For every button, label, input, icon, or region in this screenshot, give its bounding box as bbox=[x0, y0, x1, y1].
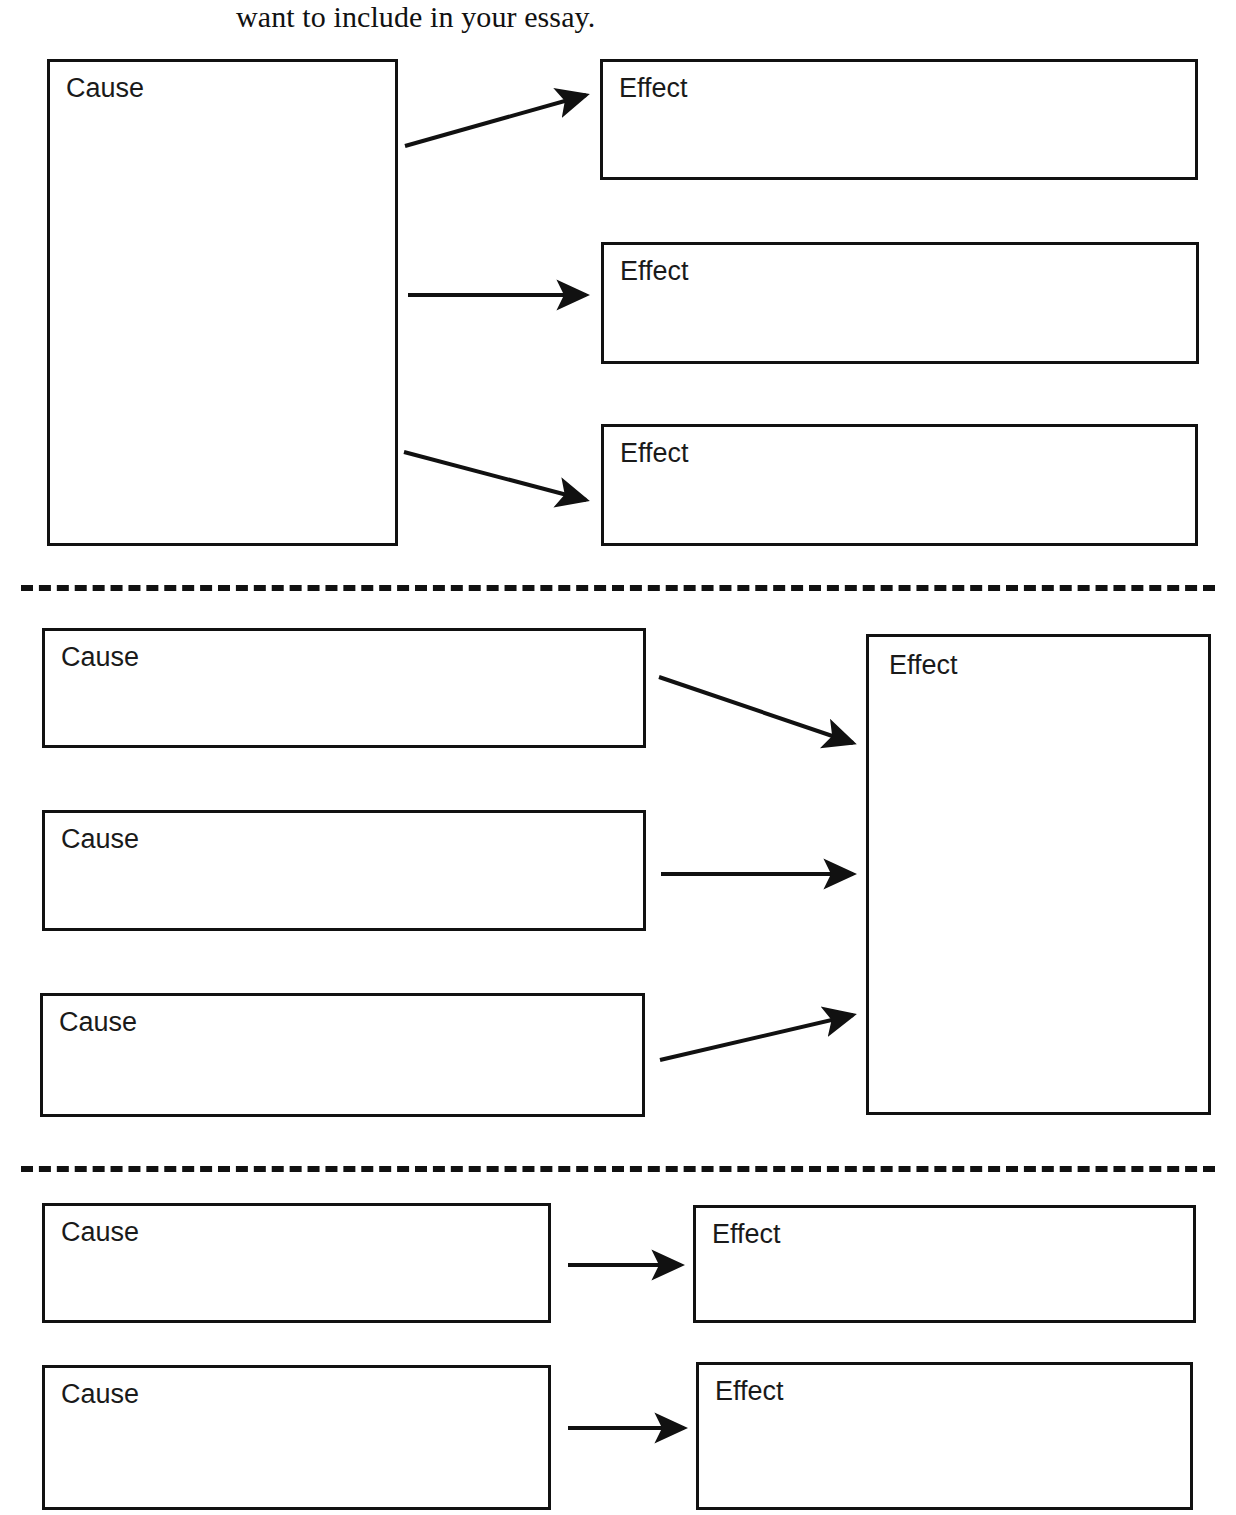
section1-effect-label-1: Effect bbox=[619, 74, 688, 104]
page-header-text: want to include in your essay. bbox=[236, 0, 595, 34]
section1-effect-label-2: Effect bbox=[620, 257, 689, 287]
section-divider-1 bbox=[21, 585, 1215, 591]
section3-cause-box-1[interactable]: Cause bbox=[42, 1203, 551, 1323]
section2-effect-label: Effect bbox=[889, 651, 958, 681]
section2-cause-box-1[interactable]: Cause bbox=[42, 628, 646, 748]
arrow-cause-to-effect-2a bbox=[659, 677, 853, 743]
section2-cause-label-1: Cause bbox=[61, 643, 139, 673]
section2-cause-label-2: Cause bbox=[61, 825, 139, 855]
section1-effect-label-3: Effect bbox=[620, 439, 689, 469]
section3-effect-box-1[interactable]: Effect bbox=[693, 1205, 1196, 1323]
section3-effect-label-2: Effect bbox=[715, 1377, 784, 1407]
section3-cause-label-2: Cause bbox=[61, 1380, 139, 1410]
section-divider-2 bbox=[21, 1166, 1215, 1172]
worksheet-page: want to include in your essay. Cause Eff… bbox=[0, 0, 1236, 1515]
section3-effect-label-1: Effect bbox=[712, 1220, 781, 1250]
section2-cause-label-3: Cause bbox=[59, 1008, 137, 1038]
section1-cause-box[interactable]: Cause bbox=[47, 59, 398, 546]
section2-cause-box-2[interactable]: Cause bbox=[42, 810, 646, 931]
section1-cause-label: Cause bbox=[66, 74, 144, 104]
section3-cause-label-1: Cause bbox=[61, 1218, 139, 1248]
arrow-cause-to-effect-2c bbox=[660, 1015, 853, 1060]
section3-effect-box-2[interactable]: Effect bbox=[696, 1362, 1193, 1510]
section1-effect-box-2[interactable]: Effect bbox=[601, 242, 1199, 364]
section1-effect-box-1[interactable]: Effect bbox=[600, 59, 1198, 180]
section1-effect-box-3[interactable]: Effect bbox=[601, 424, 1198, 546]
section2-effect-box[interactable]: Effect bbox=[866, 634, 1211, 1115]
arrow-cause-to-effect-1c bbox=[404, 452, 586, 500]
section2-cause-box-3[interactable]: Cause bbox=[40, 993, 645, 1117]
arrow-cause-to-effect-1a bbox=[405, 95, 586, 146]
section3-cause-box-2[interactable]: Cause bbox=[42, 1365, 551, 1510]
